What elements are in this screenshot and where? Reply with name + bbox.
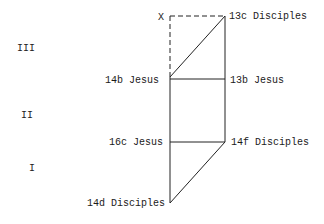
node-label-13b: 13b Jesus bbox=[230, 76, 284, 86]
marker-x: X bbox=[158, 13, 164, 23]
node-label-14d: 14d Disciples bbox=[87, 199, 165, 209]
node-label-16c: 16c Jesus bbox=[109, 138, 163, 148]
section-label-i: I bbox=[29, 164, 35, 174]
diagram-lines bbox=[0, 0, 324, 224]
section-label-ii: II bbox=[21, 111, 33, 121]
node-label-14f: 14f Disciples bbox=[231, 138, 309, 148]
node-label-14b: 14b Jesus bbox=[105, 76, 159, 86]
diagram-canvas: III II I X 13c Disciples 14b Jesus 13b J… bbox=[0, 0, 324, 224]
node-label-13c: 13c Disciples bbox=[229, 12, 307, 22]
section-label-iii: III bbox=[17, 44, 35, 54]
diagonal-14f-14d bbox=[170, 142, 225, 203]
diagonal-14b-13c bbox=[170, 16, 225, 77]
